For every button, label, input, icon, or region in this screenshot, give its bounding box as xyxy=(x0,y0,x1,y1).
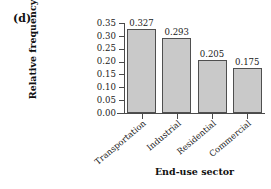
bar-group: 0.205 xyxy=(198,23,227,113)
y-axis-tick-label: 0.25 xyxy=(90,44,116,53)
y-axis-tick-label: 0.10 xyxy=(90,83,116,92)
x-axis-category-labels: TransportationIndustrialResidentialComme… xyxy=(124,119,269,167)
y-axis-tick-label: 0.20 xyxy=(90,57,116,66)
bar-group: 0.175 xyxy=(233,23,262,113)
bar-value-label: 0.327 xyxy=(119,19,164,28)
bar xyxy=(127,29,156,113)
y-axis-tick-label: 0.00 xyxy=(90,109,116,118)
y-axis-tick-label: 0.35 xyxy=(90,19,116,28)
x-axis-title: End-use sector xyxy=(124,166,265,177)
bar-value-label: 0.175 xyxy=(225,58,270,67)
figure-panel-d: (d) Relative frequency 0.000.050.100.150… xyxy=(0,0,271,189)
y-axis-tick-label: 0.15 xyxy=(90,70,116,79)
bar xyxy=(162,38,191,113)
y-axis-tick-label: 0.05 xyxy=(90,96,116,105)
bar xyxy=(233,68,262,113)
bar-group: 0.327 xyxy=(127,23,156,113)
bar-value-label: 0.293 xyxy=(154,28,199,37)
bar-group: 0.293 xyxy=(162,23,191,113)
plot-area: 0.3270.2930.2050.175 xyxy=(124,23,265,113)
y-axis-title: Relative frequency xyxy=(27,0,38,105)
bar xyxy=(198,60,227,113)
y-axis-tick-label: 0.30 xyxy=(90,32,116,41)
